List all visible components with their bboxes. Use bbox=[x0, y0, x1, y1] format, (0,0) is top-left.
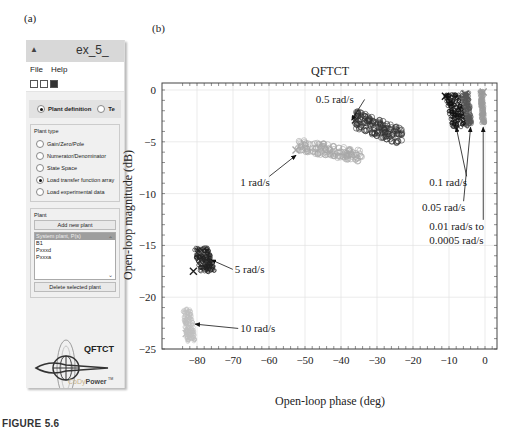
y-tick-label: 0 bbox=[151, 84, 157, 96]
x-tick-label: −50 bbox=[296, 354, 314, 366]
x-tick-label: −70 bbox=[224, 354, 242, 366]
annotation-label: 0.5 rad/s bbox=[316, 93, 354, 105]
x-tick-label: 0 bbox=[482, 354, 488, 366]
annotation-arrow bbox=[456, 127, 466, 176]
annotation-label: 0.01 rad/s to bbox=[429, 220, 484, 232]
template-cluster bbox=[181, 307, 197, 344]
chart-grid bbox=[162, 83, 497, 349]
y-tick-label: −15 bbox=[139, 239, 157, 251]
annotation-arrow bbox=[269, 155, 296, 176]
annotation-label: 0.1 rad/s bbox=[429, 176, 467, 188]
y-tick-label: −10 bbox=[139, 188, 157, 200]
template-cluster bbox=[478, 89, 487, 125]
chart-templates bbox=[181, 89, 487, 344]
template-point bbox=[399, 138, 405, 144]
nominal-marker-icon bbox=[190, 268, 197, 275]
y-tick-label: −25 bbox=[139, 343, 157, 355]
plot-frame bbox=[162, 83, 497, 349]
annotation-arrow bbox=[195, 324, 238, 328]
annotation-label: 0.05 rad/s bbox=[422, 201, 465, 213]
y-tick-label: −20 bbox=[139, 291, 157, 303]
annotation-label: 10 rad/s bbox=[240, 322, 275, 334]
x-tick-label: −60 bbox=[260, 354, 278, 366]
x-tick-label: −80 bbox=[188, 354, 206, 366]
annotation-label: 0.0005 rad/s bbox=[429, 234, 483, 246]
x-tick-label: −40 bbox=[332, 354, 350, 366]
x-tick-label: −10 bbox=[440, 354, 458, 366]
chart-annotations: 0.5 rad/s1 rad/s0.1 rad/s0.05 rad/s0.01 … bbox=[195, 93, 484, 334]
y-axis-label: Open-loop magnitude (dB) bbox=[121, 150, 135, 280]
x-tick-label: −30 bbox=[368, 354, 386, 366]
annotation-label: 1 rad/s bbox=[240, 176, 270, 188]
x-axis-label: Open-loop phase (deg) bbox=[275, 394, 385, 408]
x-tick-label: −20 bbox=[404, 354, 422, 366]
y-tick-label: −5 bbox=[144, 136, 156, 148]
annotation-label: 5 rad/s bbox=[235, 263, 265, 275]
chart-title: QFTCT bbox=[311, 64, 350, 78]
template-cluster bbox=[352, 109, 405, 146]
annotation-arrow bbox=[464, 127, 471, 201]
qftct-chart: QFTCT 0.5 rad/s1 rad/s0.1 rad/s0.05 rad/… bbox=[0, 0, 523, 433]
